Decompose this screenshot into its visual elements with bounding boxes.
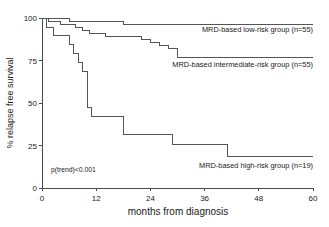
x-axis-tick-labels: 01224364860 [40,194,318,203]
series-labels: MRD-based low-risk group (n=55)MRD-based… [172,25,313,170]
y-tick-label: 50 [28,99,37,108]
survival-curves [42,18,313,156]
kaplan-meier-chart: 0255075100 01224364860 MRD-based low-ris… [0,0,329,227]
x-tick-label: 24 [146,194,155,203]
x-tick-label: 0 [40,194,45,203]
y-tick-label: 25 [28,142,37,151]
x-axis-title: months from diagnosis [128,206,229,217]
x-tick-label: 12 [92,194,101,203]
y-tick-label: 75 [28,57,37,66]
x-tick-label: 60 [309,194,318,203]
series-label-0: MRD-based low-risk group (n=55) [202,25,313,34]
y-tick-label: 0 [33,184,38,193]
survival-curve-2 [42,18,313,156]
x-tick-label: 48 [254,194,263,203]
chart-annotations: p(trend)<0.001 [51,166,96,174]
survival-curve-0 [42,18,313,24]
x-tick-label: 36 [200,194,209,203]
series-label-1: MRD-based intermediate-risk group (n=55) [172,60,313,69]
series-label-2: MRD-based high-risk group (n=19) [199,161,313,170]
y-axis-tick-labels: 0255075100 [24,14,38,193]
p-value-annotation: p(trend)<0.001 [51,166,96,174]
y-axis-title: % relapse free survival [5,57,15,148]
plot-svg: 0255075100 01224364860 MRD-based low-ris… [0,0,329,227]
y-tick-label: 100 [24,14,38,23]
